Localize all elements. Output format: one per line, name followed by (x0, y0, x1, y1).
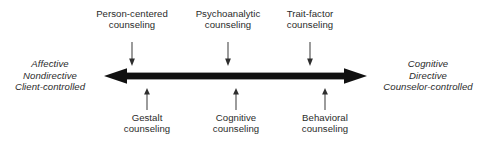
pointer-up-3 (321, 88, 330, 110)
pointer-up-1 (143, 88, 152, 110)
callout-above-1-line1: Person-centered (96, 8, 168, 19)
pointer-down-3 (306, 42, 315, 66)
callout-above-2: Psychoanalytic counseling (196, 8, 261, 31)
spectrum-axis-arrow (100, 64, 372, 88)
callout-above-3-line1: Trait-factor (287, 8, 334, 19)
callout-below-3: Behavioral counseling (302, 112, 348, 135)
pointer-down-2 (224, 42, 233, 66)
callout-above-3: Trait-factor counseling (287, 8, 334, 31)
pole-right-line3: Counselor-controlled (383, 81, 472, 93)
callout-above-1-line2: counseling (96, 19, 168, 30)
pole-left-line3: Client-controlled (15, 81, 85, 93)
pole-left-line1: Affective (15, 58, 85, 70)
callout-below-3-line2: counseling (302, 123, 348, 134)
callout-above-1: Person-centered counseling (96, 8, 168, 31)
pole-right-line2: Directive (383, 70, 472, 82)
callout-below-1: Gestalt counseling (124, 112, 170, 135)
pole-label-right: Cognitive Directive Counselor-controlled (383, 58, 472, 93)
pole-right-line1: Cognitive (383, 58, 472, 70)
pointer-down-1 (128, 42, 137, 66)
callout-below-1-line1: Gestalt (132, 112, 163, 123)
callout-below-2-line1: Cognitive (216, 112, 256, 123)
spectrum-diagram: Person-centered counseling Psychoanalyti… (0, 0, 485, 150)
callout-below-1-line2: counseling (124, 123, 170, 134)
pole-label-left: Affective Nondirective Client-controlled (15, 58, 85, 93)
callout-below-2-line2: counseling (213, 123, 259, 134)
pointer-up-2 (232, 88, 241, 110)
pole-left-line2: Nondirective (15, 70, 85, 82)
callout-below-3-line1: Behavioral (302, 112, 348, 123)
callout-above-2-line1: Psychoanalytic (196, 8, 261, 19)
callout-below-2: Cognitive counseling (213, 112, 259, 135)
callout-above-3-line2: counseling (287, 19, 334, 30)
callout-above-2-line2: counseling (196, 19, 261, 30)
